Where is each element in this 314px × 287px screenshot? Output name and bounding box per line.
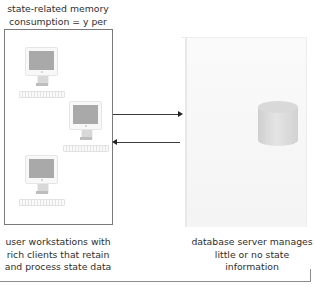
bottom-divider-tick <box>310 269 311 282</box>
server-caption: database server manages little or no sta… <box>190 236 314 274</box>
arrow-server-to-client <box>117 142 180 143</box>
monitor-icon <box>69 101 102 130</box>
keyboard-icon <box>19 199 65 206</box>
arrowhead-left-icon <box>112 139 117 145</box>
monitor-icon <box>25 155 58 184</box>
client-box <box>4 29 113 225</box>
monitor-icon <box>25 47 58 76</box>
bottom-divider <box>0 281 311 282</box>
database-cylinder-icon <box>257 100 299 147</box>
keyboard-icon <box>19 91 65 98</box>
server-box <box>185 37 307 227</box>
client-caption: user workstations with rich clients that… <box>0 236 116 274</box>
arrowhead-right-icon <box>178 111 183 117</box>
arrow-client-to-server <box>113 114 179 115</box>
workstation-icon <box>19 47 66 100</box>
workstation-icon <box>63 101 110 154</box>
workstation-icon <box>19 155 66 208</box>
keyboard-icon <box>63 145 109 152</box>
